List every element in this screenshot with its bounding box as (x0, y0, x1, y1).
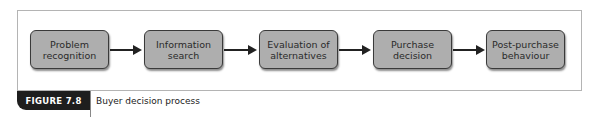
step-label-line2: alternatives (270, 50, 326, 61)
step-label-line1: Evaluation of (267, 39, 329, 50)
step-label-line1: Problem (50, 39, 89, 50)
step-label-line2: recognition (43, 50, 96, 61)
arrow-right-icon (224, 49, 255, 51)
step-label-line1: Purchase (391, 39, 434, 50)
arrow-right-icon (339, 49, 369, 51)
step-label-line2: decision (393, 50, 432, 61)
arrow-right-icon (453, 49, 483, 51)
figure-label: FIGURE 7.8 (17, 91, 90, 110)
figure-caption: Buyer decision process (96, 96, 200, 106)
step-label-line2: search (168, 50, 200, 61)
step-label-line1: Post-purchase (492, 39, 559, 50)
arrow-right-icon (110, 49, 140, 51)
step-problem-recognition: Problemrecognition (30, 30, 109, 69)
step-label-line1: Information (156, 39, 211, 50)
step-post-purchase-behaviour: Post-purchasebehaviour (486, 30, 565, 69)
step-evaluation-of-alternatives: Evaluation ofalternatives (259, 30, 338, 69)
step-information-search: Informationsearch (144, 30, 223, 69)
step-label-line2: behaviour (502, 50, 550, 61)
figure-divider (90, 91, 91, 117)
step-purchase-decision: Purchasedecision (373, 30, 452, 69)
